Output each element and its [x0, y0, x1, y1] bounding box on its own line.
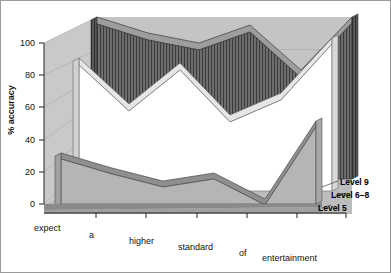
y-tick-40: 40: [9, 135, 35, 145]
y-tick-100: 100: [9, 38, 35, 48]
y-tick-80: 80: [9, 70, 35, 80]
y-axis: [39, 43, 44, 204]
legend-item-level-9: Level 9: [340, 177, 369, 187]
x-tick-of: of: [239, 248, 247, 258]
y-tick-60: 60: [9, 102, 35, 112]
y-tick-20: 20: [9, 167, 35, 177]
x-tick-standard: standard: [178, 242, 213, 252]
x-tick-a: a: [89, 230, 94, 240]
x-tick-higher: higher: [129, 236, 154, 246]
x-tick-entertainment: entertainment: [262, 253, 317, 263]
chart-frame: % accuracy 100 80 60 40 20 0 expect a hi…: [0, 0, 391, 273]
legend-item-level-5: Level 5: [318, 203, 347, 213]
legend-item-level-6-8: Level 6–8: [331, 190, 369, 200]
x-tick-expect: expect: [34, 223, 61, 233]
y-tick-0: 0: [9, 199, 35, 209]
